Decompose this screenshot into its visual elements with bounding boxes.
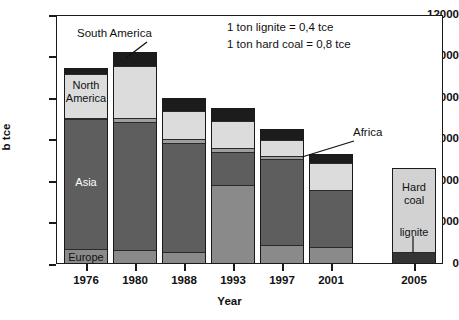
xtick-mark-1988 [184, 264, 186, 271]
xtick-label-1997: 1997 [269, 274, 295, 286]
xtick-label-1988: 1988 [171, 274, 197, 286]
x-axis-title: Year [0, 295, 459, 307]
xtick-label-1993: 1993 [220, 274, 246, 286]
stacked-bar-chart: 12000 10000 8000 6000 4000 2000 0 b tce … [0, 0, 459, 320]
xtick-mark-1997 [282, 264, 284, 271]
xtick-label-2001: 2001 [318, 274, 344, 286]
xtick-label-2005: 2005 [401, 274, 427, 286]
xtick-mark-1976 [86, 264, 88, 271]
xtick-mark-1993 [233, 264, 235, 271]
note-hardcoal-conversion: 1 ton hard coal = 0,8 tce [227, 38, 351, 50]
xtick-mark-1980 [135, 264, 137, 271]
xtick-label-1976: 1976 [73, 274, 99, 286]
xtick-mark-2001 [331, 264, 333, 271]
xtick-label-1980: 1980 [122, 274, 148, 286]
xtick-mark-2005 [414, 264, 416, 271]
note-lignite-conversion: 1 ton lignite = 0,4 tce [227, 21, 333, 33]
